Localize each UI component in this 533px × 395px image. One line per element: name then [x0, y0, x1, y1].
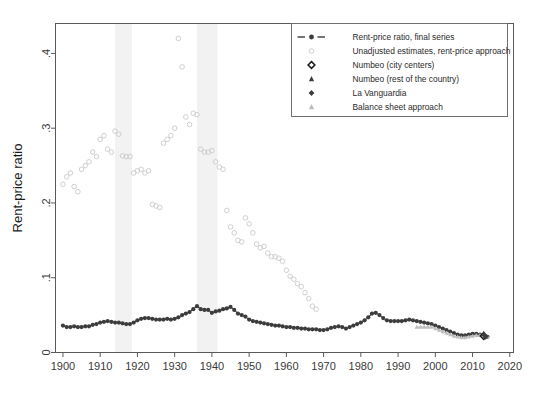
data-point [240, 313, 244, 317]
data-point [362, 318, 366, 322]
legend-label: Rent-price ratio, final series [353, 32, 455, 42]
y-tick-label: .1 [40, 273, 52, 282]
data-point [254, 242, 259, 247]
data-point [236, 312, 240, 316]
data-point [94, 322, 98, 326]
data-point [232, 231, 237, 236]
data-point [351, 323, 355, 327]
legend-label: La Vanguardia [353, 88, 407, 98]
data-point [180, 65, 185, 70]
data-point [172, 126, 177, 131]
shaded-band-2 [197, 24, 217, 353]
data-point [396, 319, 400, 323]
data-point [251, 231, 256, 236]
data-point [79, 167, 84, 172]
data-point [135, 318, 139, 322]
data-point [68, 171, 73, 176]
x-tick-label: 1960 [274, 360, 298, 372]
data-point [232, 308, 236, 312]
chart-figure: 1900191019201930194019501960197019801990… [0, 0, 533, 395]
data-point [400, 319, 404, 323]
data-point [280, 259, 285, 264]
data-point [158, 318, 162, 322]
data-point [258, 320, 262, 324]
data-point [407, 318, 411, 322]
data-point [221, 307, 225, 311]
data-point [195, 304, 199, 308]
data-point [344, 326, 348, 330]
data-point [415, 319, 419, 323]
y-tick-label: 0 [40, 349, 52, 355]
data-point [143, 316, 147, 320]
data-point [128, 322, 132, 326]
data-point [87, 324, 91, 328]
data-point [385, 318, 389, 322]
data-point [202, 308, 206, 312]
data-point [288, 325, 292, 329]
data-point [243, 216, 248, 221]
data-point [169, 318, 173, 322]
data-point [247, 222, 252, 227]
x-tick-label: 1930 [162, 360, 186, 372]
shaded-band-1 [115, 24, 132, 353]
data-point [225, 306, 229, 310]
data-point [91, 323, 95, 327]
x-tick-label: 1920 [125, 360, 149, 372]
data-point [321, 328, 325, 332]
x-tick-label: 1910 [88, 360, 112, 372]
data-point [169, 133, 174, 138]
data-point [180, 313, 184, 317]
x-tick-label: 1980 [349, 360, 373, 372]
data-point [336, 324, 340, 328]
data-point [355, 322, 359, 326]
data-point [299, 326, 303, 330]
x-tick-label: 1950 [237, 360, 261, 372]
legend-label: Unadjusted estimates, rent-price approac… [353, 46, 511, 56]
data-point [299, 284, 304, 289]
data-point [176, 315, 180, 319]
data-point [340, 325, 344, 329]
chart-canvas: 1900191019201930194019501960197019801990… [0, 0, 533, 395]
data-point [191, 307, 195, 311]
data-point [217, 309, 221, 313]
data-point [76, 189, 81, 194]
data-point [381, 316, 385, 320]
y-tick-label: .2 [40, 198, 52, 207]
data-point [214, 309, 218, 313]
x-tick-label: 2000 [423, 360, 447, 372]
data-point [262, 321, 266, 325]
data-point [366, 315, 370, 319]
legend-label: Numbeo (city centers) [353, 60, 435, 70]
data-point [146, 316, 150, 320]
data-point [76, 325, 80, 329]
data-point [83, 324, 87, 328]
data-point [389, 319, 393, 323]
data-point [210, 311, 214, 315]
data-point [303, 290, 308, 295]
data-point [79, 325, 83, 329]
data-point [161, 141, 166, 146]
data-point [284, 268, 289, 273]
data-point [206, 308, 210, 312]
data-point [292, 277, 297, 282]
data-point [72, 324, 76, 328]
data-point [120, 321, 124, 325]
data-point [161, 318, 165, 322]
data-point [254, 320, 258, 324]
data-point [284, 325, 288, 329]
data-point [377, 313, 381, 317]
data-point [113, 320, 117, 324]
x-tick-label: 1970 [311, 360, 335, 372]
data-point [61, 323, 65, 327]
data-point [102, 320, 106, 324]
data-point [266, 322, 270, 326]
data-point [303, 326, 307, 330]
x-tick-label: 2010 [460, 360, 484, 372]
data-point [187, 310, 191, 314]
data-point [265, 251, 270, 256]
data-point [199, 307, 203, 311]
chart-legend: Rent-price ratio, final seriesUnadjusted… [292, 24, 511, 117]
data-point [184, 312, 188, 316]
data-point [221, 167, 226, 172]
data-point [247, 318, 251, 322]
